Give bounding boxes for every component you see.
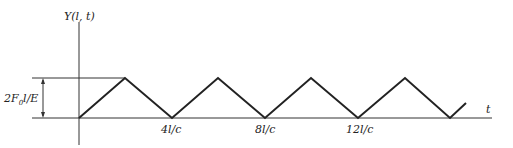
tick-label-8l-c: 8l/c	[255, 123, 275, 136]
triangular-waveform	[79, 78, 466, 118]
triangular-wave-diagram: Y(l, t) t 2F0l/E 4l/c 8l/c 12l/c	[0, 0, 513, 148]
arrow-up-icon	[41, 78, 45, 84]
arrow-down-icon	[41, 112, 45, 118]
diagram-canvas: Y(l, t) t 2F0l/E 4l/c 8l/c 12l/c	[0, 0, 513, 148]
x-axis-label: t	[486, 103, 491, 116]
tick-label-4l-c: 4l/c	[160, 123, 181, 136]
tick-label-12l-c: 12l/c	[346, 123, 373, 136]
y-axis-label: Y(l, t)	[64, 10, 95, 23]
amplitude-label: 2F0l/E	[3, 92, 38, 107]
